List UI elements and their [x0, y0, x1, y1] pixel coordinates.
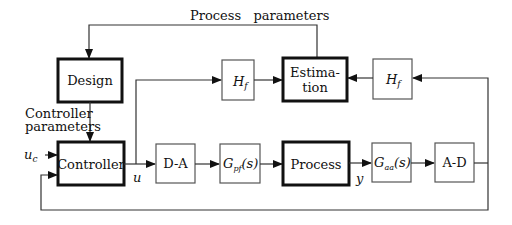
process-parameters-line	[89, 25, 317, 58]
ad-block: A-D	[435, 143, 474, 182]
estimation-label-2: tion	[302, 80, 328, 95]
gpf-block: Gpf(s)	[220, 144, 260, 183]
y-label: y	[355, 171, 364, 186]
da-label: D-A	[163, 156, 188, 171]
controller-block: Controller	[57, 142, 125, 185]
gaa-block: Gaa(s)	[372, 143, 411, 182]
controller-label: Controller	[57, 157, 125, 172]
da-block: D-A	[156, 144, 195, 183]
process-label: Process	[290, 157, 341, 172]
process-parameters-label: Process parameters	[190, 8, 329, 23]
controller-parameters-label-2: parameters	[25, 119, 101, 134]
process-block: Process	[283, 142, 349, 185]
ad-label: A-D	[441, 155, 466, 170]
hf-right-block: Hf	[373, 59, 412, 99]
uc-label: uc	[24, 147, 37, 164]
estimation-block: Estima- tion	[283, 58, 347, 101]
u-label: u	[133, 170, 141, 185]
estimation-label-1: Estima-	[290, 65, 340, 80]
design-block: Design	[58, 59, 122, 102]
block-diagram: Process parameters Design Controller par…	[0, 0, 512, 225]
design-label: Design	[67, 73, 113, 88]
gpf-label: Gpf(s)	[223, 156, 258, 173]
hf-left-block: Hf	[222, 60, 254, 100]
